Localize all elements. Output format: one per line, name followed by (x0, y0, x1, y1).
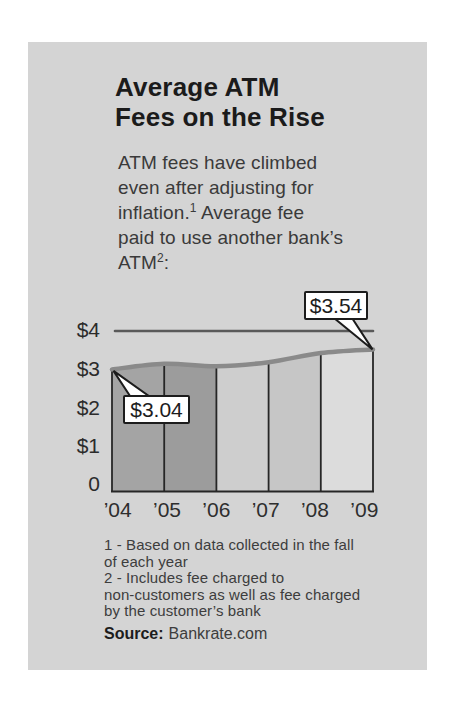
x-axis-labels: ’04 ’05 ’06 ’07 ’08 ’09 (93, 498, 389, 522)
x-axis-label-09: ’09 (340, 498, 389, 522)
y-axis-label-2-dollars: $2 (28, 396, 100, 420)
area-segment-0 (112, 364, 164, 491)
y-axis-label-1-dollar: $1 (28, 434, 100, 458)
area-segment-2 (216, 362, 268, 491)
area-segment-4 (321, 349, 373, 491)
x-axis-label-07: ’07 (241, 498, 290, 522)
x-axis-label-08: ’08 (290, 498, 339, 522)
infographic-card: Average ATM Fees on the Rise ATM fees ha… (28, 42, 427, 670)
y-axis-label-4-dollars: $4 (28, 318, 100, 342)
y-axis-label-3-dollars: $3 (28, 357, 100, 381)
callout-2004-value: $3.04 (123, 395, 190, 424)
x-axis-label-06: ’06 (192, 498, 241, 522)
callout-2004-label: $3.04 (130, 398, 183, 422)
x-axis-label-04: ’04 (93, 498, 142, 522)
callout-2009-value: $3.54 (304, 291, 368, 320)
x-axis-label-05: ’05 (142, 498, 191, 522)
callout-2009-tail (334, 318, 373, 349)
atm-fee-area-chart (28, 42, 427, 670)
area-segment-3 (269, 353, 321, 491)
callout-2009-label: $3.54 (310, 294, 363, 318)
area-segment-1 (164, 364, 216, 491)
y-axis-label-zero: 0 (28, 472, 100, 496)
